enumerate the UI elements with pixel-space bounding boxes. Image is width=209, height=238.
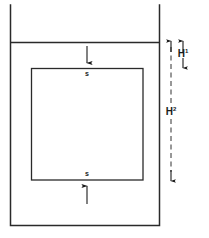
tank-diagram-svg: s s H2 H1 [0,0,209,238]
stress-label-bottom: s [85,170,89,177]
dimension-label-h2-superscript: 2 [173,106,177,112]
figure-container: s s H2 H1 [0,0,209,238]
dimension-label-h1-base: H [178,48,185,59]
stress-label-top: s [85,70,89,77]
dimension-label-h2-base: H [166,106,173,117]
dimension-label-h2: H2 [166,106,177,117]
tank-outline [11,5,160,226]
dimension-label-h1: H1 [178,48,189,59]
immersed-square-block [32,69,144,181]
dimension-label-h1-superscript: 1 [185,48,189,54]
